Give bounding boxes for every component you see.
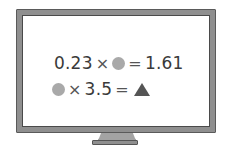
times-sign: × xyxy=(68,80,82,99)
equation-1: 0.23 × = 1.61 xyxy=(54,53,184,73)
gray-circle-icon xyxy=(112,57,125,70)
gray-circle-icon xyxy=(52,83,65,96)
triangle-icon xyxy=(134,83,150,96)
equals-sign: = xyxy=(115,80,129,99)
equation-2: × 3.5 = xyxy=(52,79,150,99)
times-sign: × xyxy=(96,54,110,73)
equals-sign: = xyxy=(128,54,142,73)
monitor-frame: 0.23 × = 1.61 × 3.5 = xyxy=(16,9,216,133)
monitor-stand-base xyxy=(92,140,138,145)
monitor-screen: 0.23 × = 1.61 × 3.5 = xyxy=(22,15,210,127)
number-1-61: 1.61 xyxy=(145,53,184,73)
number-3-5: 3.5 xyxy=(85,79,113,99)
number-0-23: 0.23 xyxy=(54,53,93,73)
